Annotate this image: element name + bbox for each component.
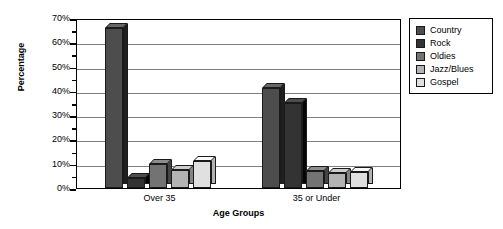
y-axis-tick-minor — [72, 128, 76, 130]
y-axis-tick-major — [70, 189, 76, 191]
bar — [149, 159, 172, 188]
y-axis-tick-label: 30% — [36, 111, 70, 120]
y-axis-tick-major — [70, 92, 76, 94]
chart-legend: CountryRockOldiesJazz/BluesGospel — [409, 18, 493, 94]
legend-item: Oldies — [416, 50, 487, 62]
y-axis-tick-minor — [72, 104, 76, 106]
y-axis-tick-label: 50% — [36, 63, 70, 72]
x-axis-title: Age Groups — [76, 208, 401, 218]
y-axis-tick-minor — [72, 31, 76, 33]
bar-front-face — [350, 172, 368, 188]
y-axis-tick-label: 60% — [36, 38, 70, 47]
y-axis-tick-label: 20% — [36, 135, 70, 144]
x-axis-tick-label: Over 35 — [115, 193, 205, 203]
y-axis-tick-major — [70, 43, 76, 45]
bar-front-face — [149, 164, 167, 188]
bar — [262, 83, 285, 188]
bar-front-face — [105, 28, 123, 188]
y-axis-tick-minor — [72, 80, 76, 82]
bar-front-face — [262, 88, 280, 188]
bar-front-face — [127, 178, 145, 188]
bar — [350, 167, 373, 188]
y-axis-tick-labels: 0%10%20%30%40%50%60%70% — [32, 19, 70, 189]
bar-front-face — [306, 171, 324, 188]
legend-item: Rock — [416, 37, 487, 49]
bar-front-face — [284, 103, 302, 188]
bar-front-face — [171, 170, 189, 188]
legend-label: Country — [430, 25, 462, 35]
bar-side-face — [211, 157, 216, 184]
legend-item: Gospel — [416, 76, 487, 88]
legend-label: Jazz/Blues — [430, 64, 474, 74]
bar — [306, 166, 329, 188]
y-axis-tick-label: 10% — [36, 160, 70, 169]
bar — [284, 98, 307, 188]
bar-chart: Percentage 0%10%20%30%40%50%60%70% Over … — [0, 0, 503, 229]
legend-label: Gospel — [430, 77, 459, 87]
legend-label: Rock — [430, 38, 451, 48]
plot-area — [76, 19, 401, 189]
legend-item: Country — [416, 24, 487, 36]
bar-front-face — [193, 161, 211, 188]
legend-swatch — [416, 26, 425, 35]
y-axis-tick-label: 40% — [36, 87, 70, 96]
y-axis-tick-major — [70, 165, 76, 167]
y-axis-title: Percentage — [16, 22, 26, 112]
y-axis-tick-major — [70, 19, 76, 21]
bar — [193, 156, 216, 188]
legend-item: Jazz/Blues — [416, 63, 487, 75]
legend-label: Oldies — [430, 51, 456, 61]
legend-swatch — [416, 65, 425, 74]
y-axis-tick-minor — [72, 55, 76, 57]
legend-swatch — [416, 78, 425, 87]
bar — [328, 168, 351, 188]
y-axis-tick-label: 0% — [36, 184, 70, 193]
bar — [105, 23, 128, 188]
y-axis-tick-major — [70, 68, 76, 70]
y-axis-tick-minor — [72, 177, 76, 179]
y-axis-tick-minor — [72, 153, 76, 155]
bar-side-face — [123, 24, 128, 184]
legend-swatch — [416, 39, 425, 48]
y-axis-tick-label: 70% — [36, 14, 70, 23]
bar — [127, 173, 150, 188]
y-axis-tick-major — [70, 140, 76, 142]
y-axis-tick-major — [70, 116, 76, 118]
bar-front-face — [328, 173, 346, 188]
bar — [171, 165, 194, 188]
x-axis-tick-label: 35 or Under — [272, 193, 362, 203]
legend-swatch — [416, 52, 425, 61]
